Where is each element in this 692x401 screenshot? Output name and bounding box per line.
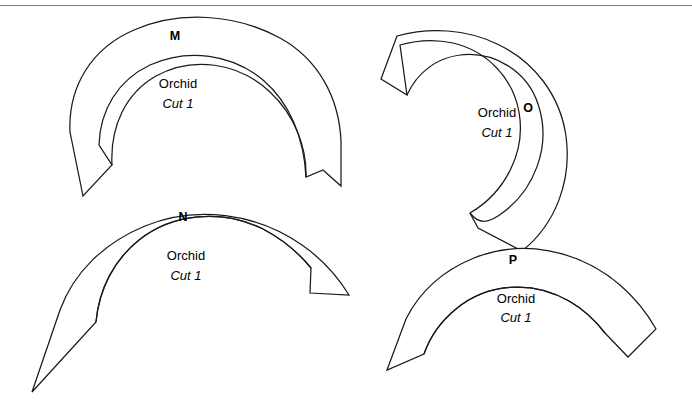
pattern-piece-p[interactable]: P Orchid Cut 1 [387,249,656,370]
piece-o-fabric-label: Orchid [478,105,516,120]
pattern-piece-n[interactable]: N Orchid Cut 1 [32,210,349,392]
piece-n-outline [32,214,349,392]
piece-m-outline [70,17,341,196]
pattern-piece-m[interactable]: M Orchid Cut 1 [70,17,341,196]
pattern-sheet: M Orchid Cut 1 N Orchid Cut 1 O Orchid C… [0,0,692,401]
piece-m-cut-label: Cut 1 [162,96,193,111]
pattern-pieces-canvas: M Orchid Cut 1 N Orchid Cut 1 O Orchid C… [0,0,692,401]
piece-p-letter-label: P [509,253,517,267]
piece-p-fabric-label: Orchid [497,291,535,306]
piece-n-cut-label: Cut 1 [170,268,201,283]
piece-p-cut-label: Cut 1 [500,310,531,325]
piece-m-letter-label: M [170,29,180,43]
piece-n-fabric-label: Orchid [167,248,205,263]
piece-o-letter-label: O [523,101,533,115]
piece-n-letter-label: N [178,210,187,224]
piece-m-fabric-label: Orchid [159,76,197,91]
pattern-piece-o[interactable]: O Orchid Cut 1 [381,31,567,251]
piece-o-cut-label: Cut 1 [481,125,512,140]
